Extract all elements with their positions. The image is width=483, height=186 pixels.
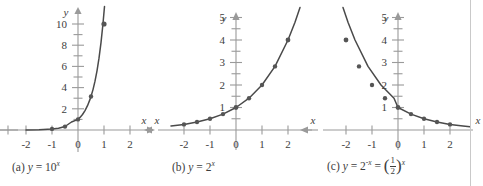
panel-a-y-ticklabels: 2 4 6 8 10 (56, 18, 68, 115)
panel-c-y-axis-label: y (383, 12, 389, 24)
caption-c-equals: = (351, 160, 358, 172)
panel-c-xtick-4: 2 (447, 138, 453, 150)
caption-c-exponent: -x (366, 158, 372, 167)
panel-b-xtick-1: -1 (205, 138, 214, 150)
caption-b-y: y (188, 161, 193, 173)
panel-c-x-ticklabels: -2 -1 0 1 2 (341, 138, 452, 150)
caption-c-paren-close: ) (396, 156, 402, 175)
caption-b-exponent: x (211, 159, 214, 168)
panel-a-ytick-3: 8 (62, 39, 68, 51)
caption-b-equals: = (196, 161, 203, 173)
panel-c-left-x-axis-label: x (310, 114, 316, 126)
caption-a: (a) y = 10x (12, 159, 60, 173)
exponential-graphs-figure: -2 -1 0 1 2 2 4 6 8 10 x y (0, 0, 483, 186)
panel-b-y-axis-label: y (221, 12, 227, 24)
panel-c-ytick-2: 3 (382, 56, 388, 68)
caption-a-prefix: (a) (12, 161, 25, 173)
caption-a-base: 10 (45, 161, 57, 173)
panel-b-xtick-4: 2 (285, 138, 291, 150)
caption-c-prefix: (c) (327, 160, 340, 172)
caption-c-equals-2: = (374, 160, 381, 172)
panel-a-xtick-2: 0 (75, 138, 81, 150)
panel-b-y-ticklabels: 1 2 3 4 5 (220, 11, 226, 113)
panel-b-x-axis-label: x (154, 114, 160, 126)
panel-a-xtick-1: -1 (47, 138, 56, 150)
panel-a-y-axis-label: y (63, 6, 69, 18)
panel-c-xtick-2: 0 (395, 138, 401, 150)
caption-c-frac-exponent: x (402, 158, 405, 167)
panel-a-ytick-2: 6 (62, 60, 68, 72)
panel-c-xtick-1: -1 (367, 138, 376, 150)
panel-a-xtick-3: 1 (101, 138, 107, 150)
panel-b-xtick-2: 0 (233, 138, 239, 150)
panel-c-xtick-3: 1 (421, 138, 427, 150)
caption-c: (c) y = 2-x = (12)x (327, 157, 405, 177)
panel-a-x-ticklabels: -2 -1 0 1 2 (21, 138, 132, 150)
caption-a-equals: = (36, 161, 43, 173)
panel-c-curve (343, 8, 470, 127)
panel-b-ytick-1: 2 (220, 79, 226, 91)
panel-b-left-axis-arrow: x (140, 0, 200, 160)
caption-b: (b) y = 2x (172, 159, 215, 173)
panel-a-ytick-4: 10 (56, 18, 68, 30)
caption-c-y: y (343, 160, 348, 172)
panel-b-ytick-3: 4 (220, 34, 226, 46)
panel-c-ytick-1: 2 (382, 79, 388, 91)
panel-a-axes (0, 7, 155, 152)
panel-a-ytick-0: 2 (62, 103, 68, 115)
caption-a-exponent: x (57, 159, 60, 168)
caption-b-prefix: (b) (172, 161, 185, 173)
chart-panel-a: -2 -1 0 1 2 2 4 6 8 10 x y (0, 0, 160, 160)
panel-a-xtick-0: -2 (21, 138, 30, 150)
caption-a-y: y (28, 161, 33, 173)
panel-a-ytick-1: 4 (62, 81, 68, 93)
left-edge-axis-fragment (0, 0, 20, 160)
panel-b-ytick-0: 1 (220, 101, 226, 113)
page-right-margin-rule (470, 0, 471, 186)
panel-c-x-axis-label: x (475, 114, 481, 126)
panel-c-ytick-3: 4 (382, 34, 388, 46)
panel-c-left-axis-arrow: x (292, 0, 352, 160)
panel-a-xtick-4: 2 (127, 138, 133, 150)
panel-c-ytick-0: 1 (382, 101, 388, 113)
panel-b-xtick-3: 1 (259, 138, 265, 150)
panel-b-ytick-2: 3 (220, 56, 226, 68)
